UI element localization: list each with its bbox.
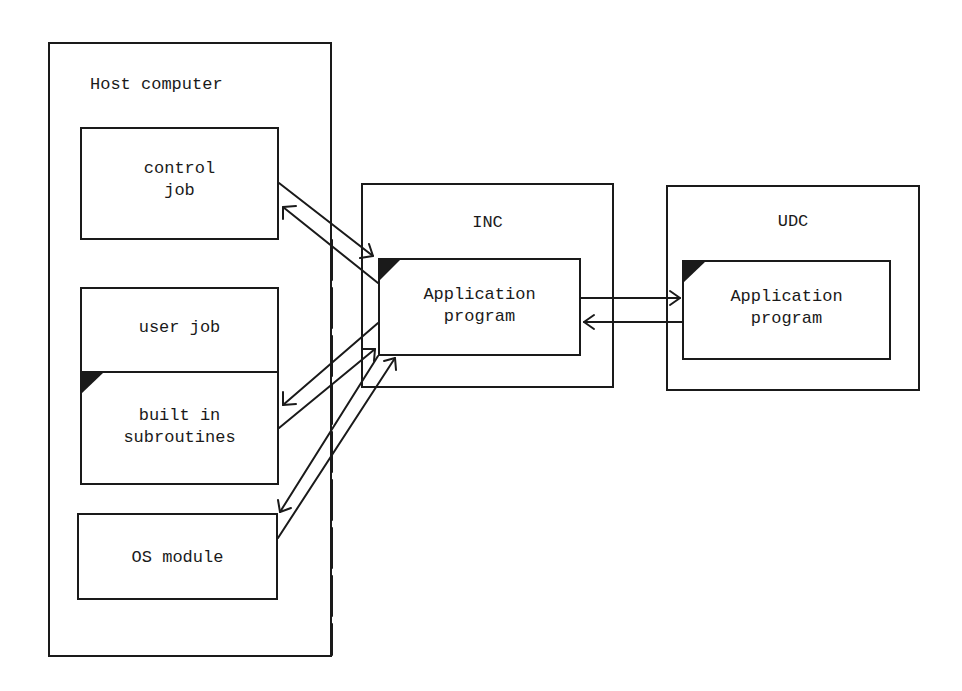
arrow-os-to-inc [278, 358, 395, 538]
corner-tag-icon [683, 261, 706, 283]
arrow-inc-to-builtin [283, 323, 378, 405]
arrow-control-to-inc [279, 183, 373, 256]
diagram-canvas: Host computer control job user job built… [0, 0, 962, 691]
corner-tag-icon [379, 259, 401, 281]
arrow-builtin-to-inc [279, 349, 375, 428]
corner-tag-icon [81, 373, 103, 394]
connectors-layer [0, 0, 962, 691]
arrow-inc-to-os [280, 356, 378, 512]
arrow-inc-to-control [283, 207, 378, 283]
